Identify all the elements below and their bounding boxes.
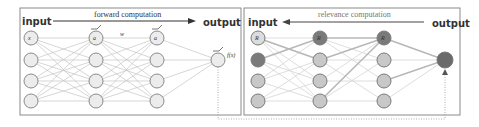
node-an <box>150 31 164 45</box>
forward-edges <box>31 38 218 101</box>
forward-arrow-head-icon <box>188 18 196 24</box>
dotted-connector <box>218 67 445 119</box>
label-rj: R <box>316 35 321 41</box>
connector-arrow-head-icon <box>442 69 448 75</box>
forward-caption: forward computation <box>94 10 161 19</box>
forward-panel: input output forward computation <box>20 8 241 115</box>
node-a1 <box>89 31 103 45</box>
relevance-caption: relevance computation <box>318 10 391 19</box>
lrp-diagram: input output forward computation <box>0 0 479 127</box>
relevance-output-label: output <box>432 18 470 29</box>
node-output <box>211 53 225 67</box>
label-an: a <box>154 35 157 41</box>
label-rk: R <box>380 35 385 41</box>
forward-output-label: output <box>203 17 241 28</box>
relevance-input-label: input <box>248 17 278 28</box>
relevance-arrow-head-icon <box>282 19 290 25</box>
node-relevance-output <box>437 52 453 68</box>
label-x1: x <box>27 35 31 41</box>
forward-input-label: input <box>22 16 52 27</box>
node-x1 <box>24 31 38 45</box>
label-fx: f(x) <box>227 52 235 59</box>
label-r1: R <box>254 35 259 41</box>
label-a1: a <box>93 35 96 41</box>
relevance-panel: input output relevance computation <box>244 8 470 115</box>
label-weight: w <box>120 31 124 37</box>
